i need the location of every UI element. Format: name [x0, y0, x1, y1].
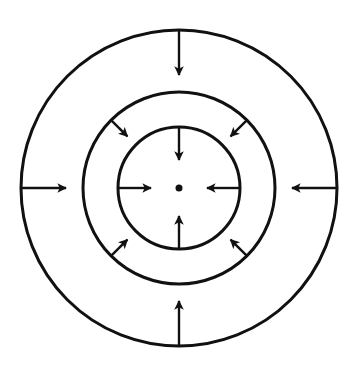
inward-arrow-icon: [231, 240, 247, 256]
inward-arrow-icon: [231, 120, 247, 136]
inward-arrow-icon: [111, 120, 127, 136]
inward-arrow-icon: [111, 240, 127, 256]
concentric-circles-diagram: [0, 0, 355, 371]
center-dot: [176, 185, 183, 192]
